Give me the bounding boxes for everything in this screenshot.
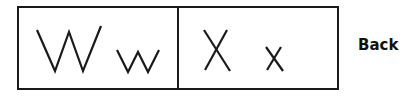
back-button[interactable]: Back: [358, 36, 398, 54]
letter-x-glyph-icon: [179, 8, 339, 88]
letter-option-w[interactable]: W w: [19, 8, 177, 88]
letter-option-x[interactable]: X x: [177, 8, 337, 88]
letter-choice-panel: W w X x: [17, 6, 339, 90]
letter-w-glyph-icon: [19, 8, 179, 88]
